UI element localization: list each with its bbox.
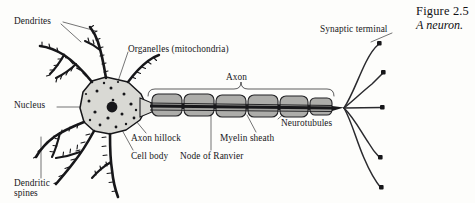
neuron-illustration (0, 0, 475, 203)
synaptic-terminals (344, 44, 383, 188)
label-myelin-sheath: Myelin sheath (220, 133, 274, 143)
label-nucleus: Nucleus (14, 100, 45, 110)
label-axon-hillock: Axon hillock (131, 133, 181, 143)
label-dendritic-spines: Dendritic spines (14, 178, 50, 199)
label-organelles: Organelles (mitochondria) (128, 44, 229, 54)
label-node-of-ranvier: Node of Ranvier (180, 151, 243, 161)
neuron-figure: Dendrites Organelles (mitochondria) Nucl… (0, 0, 475, 203)
label-dendrites: Dendrites (14, 16, 51, 26)
label-neurotubules: Neurotubules (281, 118, 332, 128)
figure-caption: Figure 2.5 A neuron. (416, 4, 469, 33)
label-synaptic-terminal: Synaptic terminal (320, 24, 388, 34)
label-cell-body: Cell body (131, 151, 168, 161)
label-dendritic-spines-line1: Dendritic (14, 178, 50, 188)
nucleus (107, 102, 118, 113)
figure-caption-subtitle: A neuron. (416, 18, 469, 33)
cell-body (80, 77, 147, 134)
figure-caption-title: Figure 2.5 (416, 4, 469, 19)
label-dendritic-spines-line2: spines (14, 188, 38, 198)
axon (140, 94, 344, 117)
terminal-boutons (377, 41, 386, 190)
label-axon: Axon (226, 72, 247, 82)
